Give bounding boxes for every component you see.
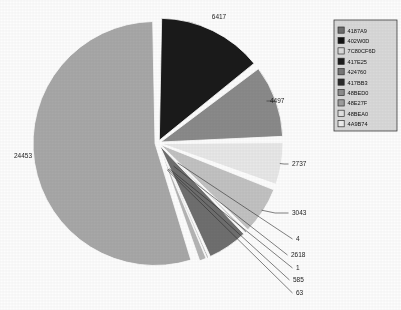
data-label: 1	[296, 264, 300, 271]
legend-item-label: 402W0D	[348, 38, 370, 44]
legend-item-label: 4187A9	[348, 28, 367, 34]
legend-swatch	[338, 27, 344, 33]
legend-item-label: 48E27F	[348, 100, 368, 106]
legend-swatch	[338, 89, 344, 95]
legend-item-label: 417E25	[348, 59, 367, 65]
data-label: 4497	[270, 97, 285, 104]
data-label: 63	[296, 289, 304, 296]
legend-swatch	[338, 121, 344, 127]
legend-item-label: 48BEA0	[348, 111, 369, 117]
legend-swatch	[338, 110, 344, 116]
data-label: 3043	[292, 209, 307, 216]
legend-swatch	[338, 48, 344, 54]
data-label: 6417	[212, 13, 227, 20]
legend-item-label: 424760	[348, 69, 367, 75]
data-label: 4	[296, 235, 300, 242]
legend-swatch	[338, 58, 344, 64]
legend: 4187A9402W0D7C80CF6D417E25424760417BB348…	[334, 20, 397, 131]
legend-item-label: 417BB3	[348, 80, 368, 86]
data-label: 24453	[14, 152, 32, 159]
legend-swatch	[338, 69, 344, 75]
legend-swatch	[338, 37, 344, 43]
data-label: 585	[293, 276, 304, 283]
legend-swatch	[338, 100, 344, 106]
pie-chart-figure: 64174497273730434261815856324453 4187A94…	[0, 0, 401, 310]
data-label: 2737	[292, 160, 307, 167]
legend-item-label: 4A9B74	[348, 121, 368, 127]
legend-item-label: 7C80CF6D	[348, 48, 376, 54]
data-label: 2618	[291, 251, 306, 258]
legend-item-label: 48BED0	[348, 90, 369, 96]
legend-swatch	[338, 79, 344, 85]
